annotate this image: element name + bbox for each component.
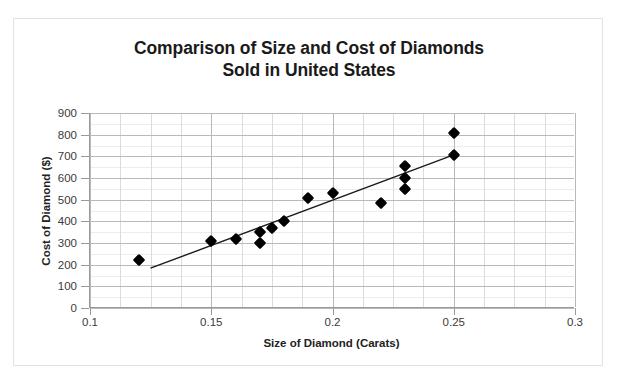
x-axis-tick — [575, 308, 576, 315]
y-axis-tick-label: 600 — [58, 172, 77, 184]
y-axis-tick — [81, 156, 89, 157]
data-point-marker — [205, 234, 218, 247]
y-axis-tick — [81, 243, 89, 244]
y-axis-tick-label: 300 — [58, 237, 77, 249]
y-axis-tick-label: 200 — [58, 259, 77, 271]
y-axis-tick — [81, 221, 89, 222]
y-axis-tick-label: 700 — [58, 150, 77, 162]
y-axis-tick-label: 500 — [58, 194, 77, 206]
x-axis-tick-label: 0.15 — [200, 316, 222, 328]
x-axis-tick — [211, 308, 212, 315]
chart-title-line-1: Comparison of Size and Cost of Diamonds — [134, 38, 484, 58]
y-axis-tick — [81, 135, 89, 136]
y-axis-tick — [81, 308, 89, 309]
data-point-marker — [302, 191, 315, 204]
y-axis-tick-label: 0 — [71, 302, 77, 314]
y-axis-tick-label: 900 — [58, 107, 77, 119]
data-point-marker — [326, 187, 339, 200]
x-axis-tick-label: 0.1 — [82, 316, 98, 328]
x-axis-tick-label: 0.25 — [443, 316, 465, 328]
y-axis-tick-label: 800 — [58, 129, 77, 141]
x-axis-tick — [454, 308, 455, 315]
y-axis-tick-label: 100 — [58, 280, 77, 292]
y-axis-title-label: Cost of Diamond ($) — [40, 156, 52, 265]
data-point-marker — [253, 237, 266, 250]
chart-frame: Comparison of Size and Cost of Diamonds … — [13, 18, 603, 366]
data-point-marker — [447, 149, 460, 162]
x-axis-tick — [333, 308, 334, 315]
gridline-vertical — [575, 113, 576, 307]
data-point-marker — [266, 221, 279, 234]
data-points-layer — [90, 113, 574, 307]
y-axis-tick — [81, 113, 89, 114]
data-point-marker — [229, 232, 242, 245]
x-axis-tick-label: 0.3 — [567, 316, 583, 328]
plot-area: 01002003004005006007008009000.10.150.20.… — [89, 113, 574, 308]
y-axis-tick — [81, 178, 89, 179]
chart-title-line-2: Sold in United States — [14, 59, 604, 81]
data-point-marker — [278, 215, 291, 228]
x-axis-title: Size of Diamond (Carats) — [89, 337, 574, 349]
x-axis-tick — [90, 308, 91, 315]
data-point-marker — [375, 197, 388, 210]
chart-title: Comparison of Size and Cost of Diamonds … — [14, 37, 604, 82]
x-axis-title-label: Size of Diamond (Carats) — [263, 337, 399, 349]
y-axis-tick-label: 400 — [58, 215, 77, 227]
data-point-marker — [399, 182, 412, 195]
data-point-marker — [447, 126, 460, 139]
data-point-marker — [132, 254, 145, 267]
y-axis-tick — [81, 265, 89, 266]
data-point-marker — [399, 160, 412, 173]
x-axis-tick-label: 0.2 — [325, 316, 341, 328]
y-axis-tick — [81, 286, 89, 287]
y-axis-title: Cost of Diamond ($) — [38, 113, 54, 308]
y-axis-tick — [81, 200, 89, 201]
